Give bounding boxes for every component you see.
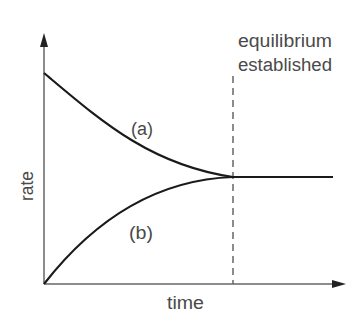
annotation-line2: established xyxy=(238,55,332,75)
x-axis-label: time xyxy=(167,293,204,313)
y-axis-arrow-icon xyxy=(40,33,48,47)
rate-time-chart: equilibrium established (a) (b) time rat… xyxy=(0,0,364,324)
curve-a-label: (a) xyxy=(131,119,153,139)
y-axis-label: rate xyxy=(17,171,37,201)
x-axis-arrow-icon xyxy=(332,280,346,288)
curve-b-label: (b) xyxy=(129,223,153,243)
annotation-line1: equilibrium xyxy=(238,31,332,51)
